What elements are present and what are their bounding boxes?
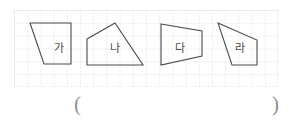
figure-ra-label: 라 <box>235 43 245 54</box>
grid-area: 가 나 다 라 <box>14 10 278 87</box>
figure-ga-outline <box>30 23 71 64</box>
worksheet: 가 나 다 라 ( ) <box>0 0 290 128</box>
answer-open-paren: ( <box>74 92 81 116</box>
answer-row: ( ) <box>0 92 290 124</box>
figure-da-label: 다 <box>175 43 185 54</box>
figure-na-label: 나 <box>110 43 120 54</box>
figure-ga-label: 가 <box>54 43 64 54</box>
answer-blank[interactable] <box>90 98 268 114</box>
answer-close-paren: ) <box>272 92 279 116</box>
